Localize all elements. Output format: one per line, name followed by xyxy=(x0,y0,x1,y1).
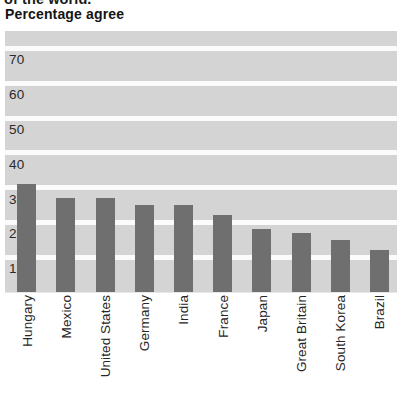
x-axis-label-text: Mexico xyxy=(58,295,73,338)
bar xyxy=(252,229,271,292)
bar xyxy=(292,233,311,292)
x-axis-label-text: France xyxy=(215,295,230,338)
bar xyxy=(213,215,232,292)
x-axis-label-text: India xyxy=(176,295,191,325)
chart-page: of the world. Percentage agree 706050403… xyxy=(0,0,402,394)
bar xyxy=(56,198,75,292)
bar xyxy=(17,184,36,292)
x-axis-label: United States xyxy=(85,293,124,394)
x-axis-label: Japan xyxy=(242,293,281,394)
bar-series xyxy=(5,31,397,292)
bar xyxy=(135,205,154,292)
chart-subtitle: Percentage agree xyxy=(5,6,124,22)
x-axis-label: Mexico xyxy=(46,293,85,394)
x-axis-label: France xyxy=(203,293,242,394)
x-axis-labels: HungaryMexicoUnited StatesGermanyIndiaFr… xyxy=(5,293,397,394)
x-axis-label: India xyxy=(164,293,203,394)
x-axis-label: Great Britain xyxy=(281,293,320,394)
x-axis-label-text: Great Britain xyxy=(293,295,308,372)
x-axis-label-text: Brazil xyxy=(372,295,387,329)
x-axis-label-text: Japan xyxy=(254,295,269,332)
x-axis-label-text: South Korea xyxy=(333,295,348,371)
x-axis-label-text: United States xyxy=(97,295,112,377)
bar xyxy=(331,240,350,292)
x-axis-label: South Korea xyxy=(321,293,360,394)
x-axis-label: Germany xyxy=(125,293,164,394)
plot-area: 70605040302010 xyxy=(5,31,397,292)
bar xyxy=(96,198,115,292)
x-axis-label-text: Germany xyxy=(137,295,152,351)
x-axis-label: Hungary xyxy=(7,293,46,394)
bar xyxy=(174,205,193,292)
x-axis-label: Brazil xyxy=(360,293,399,394)
x-axis-label-text: Hungary xyxy=(19,295,34,347)
bar xyxy=(370,250,389,292)
